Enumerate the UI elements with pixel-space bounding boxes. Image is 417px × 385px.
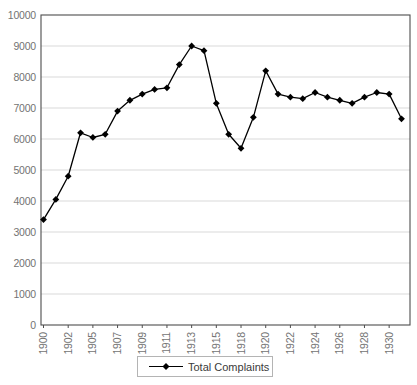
data-point-marker [373,89,380,96]
data-point-marker [164,84,171,91]
x-tick-label: 1900 [37,332,49,355]
data-point-marker [52,196,59,203]
data-point-marker [324,94,331,101]
legend: Total Complaints [137,356,273,377]
data-point-marker [299,95,306,102]
data-point-marker [398,115,405,122]
x-tick-label: 1902 [62,332,74,355]
data-point-marker [386,91,393,98]
data-point-marker [102,131,109,138]
y-tick-label: 7000 [13,102,36,114]
data-point-marker [201,47,208,54]
x-tick-label: 1930 [383,332,395,355]
y-tick-label: 9000 [13,40,36,52]
y-tick-label: 0 [30,319,36,331]
y-tick-label: 1000 [13,288,36,300]
data-point-marker [151,86,158,93]
x-tick-label: 1909 [136,332,148,355]
legend-line-marker-icon [149,362,183,371]
data-point-marker [77,129,84,136]
data-point-marker [361,94,368,101]
data-point-marker [139,91,146,98]
x-tick-label: 1928 [358,332,370,355]
y-tick-label: 6000 [13,133,36,145]
x-tick-label: 1918 [235,332,247,355]
legend-series-label: Total Complaints [188,361,269,373]
data-point-marker [213,100,220,107]
x-tick-label: 1911 [160,332,172,354]
data-point-marker [89,134,96,141]
x-tick-label: 1926 [333,332,345,355]
y-tick-label: 4000 [13,195,36,207]
x-tick-label: 1907 [111,332,123,355]
data-point-marker [349,100,356,107]
x-tick-label: 1922 [284,332,296,355]
data-point-marker [250,114,257,121]
y-tick-label: 10000 [8,9,37,21]
y-tick-label: 2000 [13,257,36,269]
y-tick-label: 8000 [13,71,36,83]
x-tick-label: 1905 [86,332,98,355]
y-tick-label: 3000 [13,226,36,238]
data-point-marker [336,97,343,104]
chart-container: 0100020003000400050006000700080009000100… [0,0,417,385]
y-tick-label: 5000 [13,164,36,176]
data-point-marker [262,67,269,74]
x-tick-label: 1915 [210,332,222,355]
data-point-marker [287,94,294,101]
total-complaints-line-chart: 0100020003000400050006000700080009000100… [0,0,417,385]
data-point-marker [65,173,72,180]
data-point-marker [312,89,319,96]
x-tick-label: 1924 [309,332,321,355]
series-line [44,46,402,220]
x-tick-label: 1920 [259,332,271,355]
x-tick-label: 1913 [185,332,197,355]
data-point-marker [275,91,282,98]
data-point-marker [176,61,183,68]
